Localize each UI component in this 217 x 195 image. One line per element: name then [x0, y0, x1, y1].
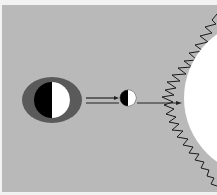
eclipse-diagram: [0, 0, 217, 195]
earth-icon: [34, 82, 70, 118]
diagram-canvas: [0, 0, 217, 195]
moon-icon: [120, 90, 136, 106]
